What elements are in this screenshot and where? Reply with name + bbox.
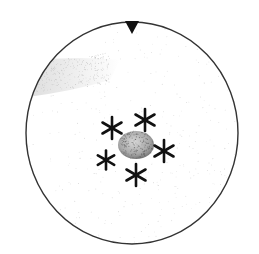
field-of-view-diagram: [0, 0, 259, 254]
